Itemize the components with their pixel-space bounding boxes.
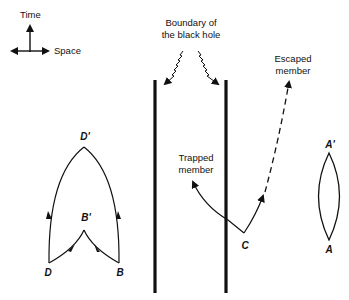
space-axis-label: Space — [54, 45, 81, 56]
arrow-icon — [68, 244, 75, 252]
trapped-label-line1: Trapped — [178, 152, 213, 163]
point-d-prime-label: D' — [80, 131, 90, 142]
time-axis-label: Time — [20, 9, 41, 20]
spacetime-diagram — [0, 0, 349, 300]
point-c-label: C — [241, 240, 248, 251]
boundary-label-line2: the black hole — [162, 29, 221, 40]
escaped-member-path — [244, 196, 263, 233]
trapped-label-line2: member — [179, 164, 214, 175]
point-a-label: A — [325, 244, 332, 255]
escaped-member-dashed — [265, 82, 289, 192]
loop-diagram — [46, 147, 121, 263]
point-b-prime-label: B' — [81, 212, 91, 223]
point-d-label: D — [44, 267, 51, 278]
boundary-pointer-left — [165, 51, 183, 84]
point-b-label: B — [116, 267, 123, 278]
trapped-member-path — [193, 182, 244, 233]
axes-icon — [12, 26, 48, 52]
boundary-pointer-right — [198, 51, 218, 84]
escaped-label-line2: member — [276, 65, 311, 76]
arrow-icon — [46, 211, 52, 219]
point-a-prime-label: A' — [325, 139, 335, 150]
lens-diagram — [319, 153, 340, 240]
escaped-label-line1: Escaped — [275, 53, 312, 64]
boundary-label-line1: Boundary of — [165, 17, 216, 28]
